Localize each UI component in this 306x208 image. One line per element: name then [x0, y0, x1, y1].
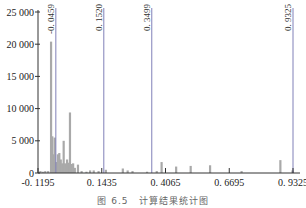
reference-line-label: 0. 9325 — [283, 4, 293, 32]
histogram-bars — [39, 42, 293, 173]
reference-line-label: 0. 1520 — [94, 4, 104, 32]
y-tick-label: 25 000 — [7, 7, 35, 18]
histogram-chart: -0. 04590. 15200. 34990. 9325 05 00010 0… — [0, 0, 306, 208]
figure-caption: 图 6.5 计算结果统计图 — [0, 194, 306, 207]
y-tick-label: 15 000 — [7, 71, 35, 82]
histogram-bar — [74, 168, 76, 173]
reference-line-label: 0. 3499 — [142, 4, 152, 32]
x-tick-label: 0. 1435 — [87, 177, 117, 188]
y-tick-label: 20 000 — [7, 39, 35, 50]
histogram-bar — [161, 162, 163, 173]
x-tick-label: 0. 6695 — [214, 177, 244, 188]
histogram-bar — [122, 168, 124, 173]
histogram-bar — [190, 166, 192, 173]
histogram-bar — [64, 163, 66, 173]
x-tick-label: -0. 1195 — [22, 177, 55, 188]
histogram-bar — [279, 160, 281, 173]
x-tick-label: 0. 4065 — [151, 177, 181, 188]
histogram-bar — [69, 112, 71, 173]
x-tick-label: 0. 9325 — [278, 177, 306, 188]
reference-line-label: -0. 0459 — [46, 4, 56, 34]
y-tick-label: 5 000 — [12, 135, 35, 146]
reference-lines: -0. 04590. 15200. 34990. 9325 — [46, 4, 293, 174]
histogram-bar — [77, 165, 79, 173]
histogram-bar — [209, 165, 211, 173]
histogram-bar — [175, 167, 177, 173]
y-tick-label: 10 000 — [7, 103, 35, 114]
